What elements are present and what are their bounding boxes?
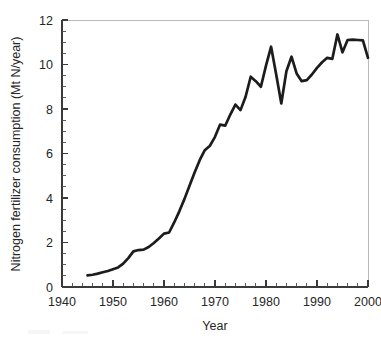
y-tick-label: 10 [39, 58, 53, 72]
y-tick-label: 2 [46, 236, 53, 250]
x-axis-title: Year [202, 319, 227, 333]
y-axis-tick-labels: 024681012 [39, 14, 53, 295]
data-series-group [88, 34, 369, 275]
x-tick-label: 1950 [99, 295, 127, 309]
axes [62, 20, 368, 287]
x-tick-label: 2000 [354, 295, 381, 309]
frame-top-right [62, 20, 368, 287]
y-tick-label: 12 [39, 14, 53, 28]
x-axis-ticks [62, 280, 368, 287]
y-axis-ticks [62, 20, 68, 287]
nitrogen-fertilizer-line-chart: 024681012 1940195019601970198019902000 Y… [0, 0, 381, 338]
x-tick-label: 1990 [303, 295, 331, 309]
y-tick-label: 6 [46, 147, 53, 161]
x-tick-label: 1940 [48, 295, 76, 309]
scan-artifact-left [28, 330, 50, 334]
scan-artifact-right [62, 331, 88, 334]
y-tick-label: 0 [46, 281, 53, 295]
series-line-nitrogen [88, 34, 369, 275]
figure-container: 024681012 1940195019601970198019902000 Y… [0, 0, 381, 338]
x-tick-label: 1960 [150, 295, 178, 309]
x-axis-tick-labels: 1940195019601970198019902000 [48, 295, 381, 309]
y-axis-title: Nitrogen fertilizer consumption (Mt N/ye… [9, 37, 23, 272]
plot-frame [62, 20, 368, 287]
x-tick-label: 1980 [252, 295, 280, 309]
x-tick-label: 1970 [201, 295, 229, 309]
y-tick-label: 4 [46, 192, 53, 206]
y-tick-label: 8 [46, 103, 53, 117]
